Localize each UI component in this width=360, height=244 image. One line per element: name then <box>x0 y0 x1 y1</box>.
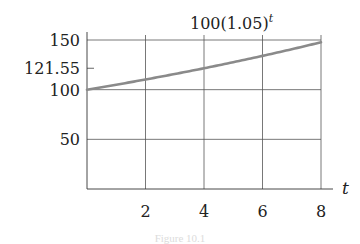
x-tick-label: 8 <box>316 202 326 221</box>
exponential-growth-chart: 50100121.55150 2468 t 100(1.05)t <box>0 0 360 244</box>
y-tick-label: 50 <box>60 130 80 149</box>
grid-lines <box>87 35 321 189</box>
figure-caption: Figure 10.1 <box>0 232 360 244</box>
y-tick-label: 121.55 <box>24 59 80 78</box>
y-tick-label: 100 <box>49 81 80 100</box>
curve-label: 100(1.05)t <box>190 12 274 33</box>
y-tick-labels: 50100121.55150 <box>24 31 80 149</box>
x-tick-label: 6 <box>257 202 267 221</box>
axes <box>87 32 333 189</box>
y-tick-label: 150 <box>49 31 80 50</box>
x-tick-labels: 2468 <box>140 202 326 221</box>
x-axis-label: t <box>342 178 349 198</box>
x-tick-label: 2 <box>140 202 150 221</box>
x-tick-label: 4 <box>199 202 209 221</box>
